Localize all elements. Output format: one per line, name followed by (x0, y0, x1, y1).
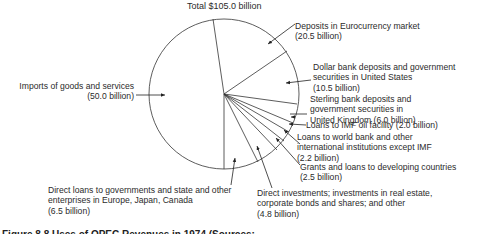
label-eurocurrency: Deposits in Eurocurrency market (20.5 bi… (295, 21, 420, 42)
label-grants-developing: Grants and loans to developing countries… (300, 162, 456, 183)
label-dollar-deposits: Dollar bank deposits and government secu… (313, 62, 455, 93)
label-direct-investments: Direct investments; investments in real … (257, 188, 432, 219)
label-direct-loans: Direct loans to governments and state an… (48, 185, 231, 216)
label-imf-loans: Loans to IMF oil facility (2.0 billion) (306, 120, 438, 130)
label-worldbank-loans: Loans to world bank and other internatio… (297, 132, 432, 163)
label-imports: Imports of goods and services (50.0 bill… (8, 81, 134, 102)
chart-title: Total $105.0 billion (187, 1, 262, 11)
